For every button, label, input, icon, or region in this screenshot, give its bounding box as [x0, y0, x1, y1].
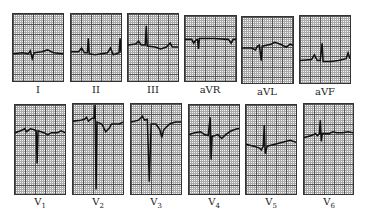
ecg-strip-V1 [14, 104, 66, 195]
ecg-strip-aVR [184, 15, 237, 82]
lead-label-V6: V6 [303, 196, 355, 210]
lead-label-aVF: aVF [299, 86, 351, 97]
lead-label-V1: V1 [14, 196, 66, 210]
ecg-trace-I [13, 14, 63, 81]
lead-label-II: II [70, 84, 122, 95]
lead-label-V2: V2 [72, 196, 124, 210]
lead-label-aVR: aVR [184, 84, 236, 95]
lead-label-V4: V4 [188, 196, 240, 210]
lead-label-I: I [12, 84, 64, 95]
ecg-strip-V6 [303, 103, 354, 195]
ecg-strip-V5 [245, 104, 297, 195]
ecg-strip-III [127, 13, 179, 82]
lead-label-V3: V3 [130, 196, 182, 210]
ecg-strip-V4 [188, 104, 240, 195]
ecg-strip-II [70, 13, 122, 82]
ecg-strip-I [12, 13, 64, 82]
ecg-strip-V3 [130, 103, 182, 195]
ecg-strip-V2 [72, 103, 124, 195]
lead-label-III: III [127, 84, 179, 95]
lead-label-V5: V5 [245, 196, 297, 210]
ecg-strip-aVL [241, 16, 294, 84]
lead-label-aVL: aVL [241, 86, 293, 97]
ecg-strip-aVF [299, 15, 351, 84]
